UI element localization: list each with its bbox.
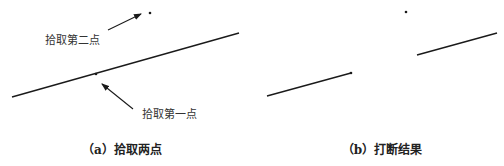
caption-panel-a: （a）拾取两点 bbox=[82, 144, 162, 156]
arrow-to-first-point bbox=[102, 84, 133, 109]
broken-segment-left bbox=[267, 73, 351, 96]
broken-segment-right bbox=[417, 33, 497, 55]
panel-a bbox=[12, 12, 239, 109]
diagram-canvas bbox=[0, 0, 504, 166]
arrow-to-second-point bbox=[108, 14, 141, 30]
isolated-point-dot bbox=[405, 11, 408, 14]
segment-endpoint-dot bbox=[350, 72, 353, 75]
label-second-point: 拾取第二点 bbox=[45, 35, 100, 46]
first-point-marker bbox=[95, 73, 98, 76]
panel-b bbox=[267, 11, 497, 96]
second-point-marker bbox=[149, 12, 152, 15]
caption-panel-b: （b）打断结果 bbox=[342, 144, 422, 156]
label-first-point: 拾取第一点 bbox=[142, 109, 197, 120]
